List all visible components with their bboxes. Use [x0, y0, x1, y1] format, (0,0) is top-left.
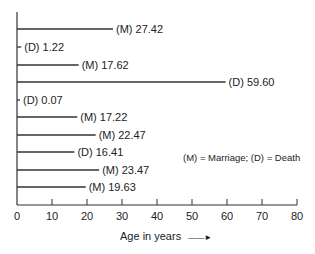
bar-label: (D) 59.60: [229, 76, 275, 88]
x-axis-label-text: Age in years: [120, 230, 181, 242]
bar-label: (M) 17.22: [80, 111, 127, 123]
x-tick-label: 50: [186, 210, 198, 222]
bar-label: (D) 1.22: [24, 41, 64, 53]
bar-label: (M) 23.47: [102, 164, 149, 176]
x-tick-label: 10: [46, 210, 58, 222]
horizontal-bar-chart: 01020304050607080 (M) 27.42(D) 1.22(M) 1…: [0, 0, 315, 254]
legend-text: (M) = Marriage; (D) = Death: [183, 152, 300, 163]
bar-label: (M) 22.47: [99, 129, 146, 141]
x-tick-label: 60: [221, 210, 233, 222]
x-tick-label: 0: [14, 210, 20, 222]
x-tick-label: 70: [256, 210, 268, 222]
x-tick-label: 80: [291, 210, 303, 222]
x-tick-label: 30: [116, 210, 128, 222]
x-ticks: 01020304050607080: [14, 199, 303, 222]
bars: (M) 27.42(D) 1.22(M) 17.62(D) 59.60(D) 0…: [17, 23, 274, 193]
x-tick-label: 40: [151, 210, 163, 222]
arrow-right-icon: ——►: [188, 233, 212, 242]
bar-label: (M) 19.63: [89, 181, 136, 193]
x-axis-label: Age in years ——►: [120, 230, 212, 242]
bar-label: (D) 0.07: [23, 94, 63, 106]
bar-label: (D) 16.41: [77, 146, 123, 158]
bar-label: (M) 17.62: [82, 59, 129, 71]
bar-label: (M) 27.42: [116, 23, 163, 35]
x-tick-label: 20: [81, 210, 93, 222]
